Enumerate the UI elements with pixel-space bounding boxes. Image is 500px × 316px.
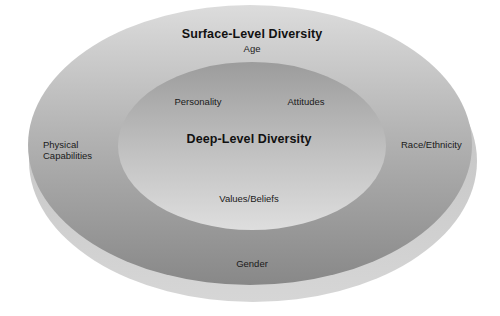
diversity-diagram: Surface-Level Diversity Age Physical Cap… — [0, 0, 500, 316]
label-race-ethnicity: Race/Ethnicity — [401, 139, 462, 150]
label-personality: Personality — [175, 96, 222, 107]
label-gender: Gender — [236, 258, 268, 269]
surface-level-title: Surface-Level Diversity — [182, 27, 323, 41]
deep-level-title: Deep-Level Diversity — [187, 132, 312, 146]
label-age: Age — [244, 43, 261, 54]
label-attitudes: Attitudes — [288, 96, 325, 107]
inner-ellipse-deep-level — [118, 62, 386, 230]
label-physical-capabilities-line1: Physical — [43, 139, 78, 150]
label-physical-capabilities-line2: Capabilities — [43, 150, 92, 161]
label-values-beliefs: Values/Beliefs — [219, 193, 279, 204]
